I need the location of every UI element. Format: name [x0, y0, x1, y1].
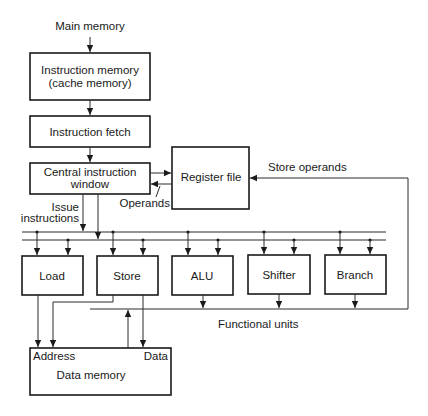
central-window-label-line1: Central instruction: [44, 166, 137, 178]
central-window-label-line2: window: [70, 178, 110, 190]
unit-load-label: Load: [39, 270, 65, 282]
instruction-memory-box: Instruction memory (cache memory): [30, 53, 150, 100]
instruction-fetch-label: Instruction fetch: [49, 126, 130, 138]
superscalar-architecture-diagram: Main memory Instruction memory (cache me…: [0, 0, 428, 416]
unit-alu-label: ALU: [191, 270, 213, 282]
unit-store-box: Store: [97, 256, 158, 295]
unit-shifter-label: Shifter: [262, 269, 295, 281]
register-file-box: Register file: [172, 147, 249, 209]
issue-label-line2: instructions: [21, 212, 79, 224]
unit-store-label: Store: [113, 270, 141, 282]
unit-branch-box: Branch: [325, 255, 386, 294]
central-instruction-window-box: Central instruction window: [30, 163, 150, 194]
instruction-memory-label-line1: Instruction memory: [41, 64, 139, 76]
bus-taps: [35, 230, 371, 255]
address-port-label: Address: [33, 350, 75, 362]
data-port-label: Data: [144, 350, 169, 362]
instruction-memory-label-line2: (cache memory): [48, 77, 131, 89]
unit-shifter-box: Shifter: [248, 255, 310, 294]
store-operands-label: Store operands: [268, 161, 347, 173]
data-memory-box: Address Data Data memory: [30, 348, 171, 395]
operands-pointer: [156, 186, 160, 197]
operands-label: Operands: [119, 197, 170, 209]
main-memory-label: Main memory: [55, 20, 125, 32]
store-address-arrow: [53, 295, 113, 347]
unit-alu-box: ALU: [172, 256, 233, 295]
functional-units-label: Functional units: [218, 318, 299, 330]
instruction-fetch-box: Instruction fetch: [30, 116, 150, 147]
unit-branch-label: Branch: [337, 269, 373, 281]
data-memory-label: Data memory: [56, 369, 125, 381]
unit-load-box: Load: [22, 256, 83, 295]
register-file-label: Register file: [181, 171, 242, 183]
